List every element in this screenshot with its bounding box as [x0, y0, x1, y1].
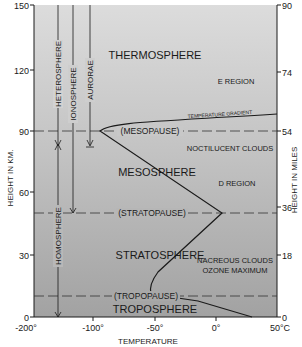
- tick-label: 90: [19, 127, 29, 137]
- troposphere-label: TROPOSPHERE: [113, 303, 197, 315]
- heterosphere-label: HETEROSPHERE: [54, 41, 63, 107]
- tick-label: 150: [14, 1, 29, 11]
- noctilucent-clouds-label: NOCTILUCENT CLOUDS: [187, 144, 274, 153]
- tick-label: -100°: [82, 323, 104, 333]
- x-axis-title: TEMPERATURE: [118, 337, 178, 346]
- tick-label: 74: [282, 68, 292, 78]
- tick-label: -50°: [147, 323, 164, 333]
- y-axis-title-left: HEIGHT IN KM.: [6, 150, 15, 207]
- tick-label: 54: [282, 127, 292, 137]
- stratosphere-label: STRATOSPHERE: [116, 249, 205, 261]
- tick-label: 60: [19, 188, 29, 198]
- mesopause-label: (MESOPAUSE): [121, 126, 180, 136]
- tick-label: -200°: [15, 323, 37, 333]
- ozone-maximum-label: OZONE MAXIMUM: [203, 266, 268, 275]
- bottom-ticks: -200° -100° -50° 0° 50°C: [15, 317, 290, 333]
- ionosphere-label: IONOSPHERE: [69, 67, 78, 120]
- tick-label: 90: [282, 1, 292, 11]
- tick-label: 0°: [212, 323, 221, 333]
- stratopause-label: (STRATOPAUSE): [118, 208, 186, 218]
- tick-label: 30: [19, 251, 29, 261]
- nacreous-clouds-label: NACREOUS CLOUDS: [197, 256, 273, 265]
- tick-label: 50°C: [270, 323, 291, 333]
- mesosphere-label: MESOSPHERE: [118, 166, 196, 178]
- left-ticks: 150 120 90 60 30 0: [14, 1, 34, 323]
- d-region-label: D REGION: [218, 179, 255, 188]
- tropopause-label: (TROPOPAUSE): [114, 291, 178, 301]
- tick-label: 0: [282, 313, 287, 323]
- thermosphere-label: THERMOSPHERE: [109, 49, 202, 61]
- homosphere-label: HOMOSPHERE: [54, 207, 63, 265]
- tick-label: 18: [282, 251, 292, 261]
- tick-label: 0: [24, 313, 29, 323]
- y-axis-title-right: HEIGHT IN MILES: [290, 147, 299, 214]
- aurorae-label: AURORAE: [86, 60, 95, 100]
- e-region-label: E REGION: [218, 77, 255, 86]
- atmosphere-chart: 150 120 90 60 30 0 90 74 54 36 18 0 -200…: [0, 0, 302, 347]
- tick-label: 120: [14, 66, 29, 76]
